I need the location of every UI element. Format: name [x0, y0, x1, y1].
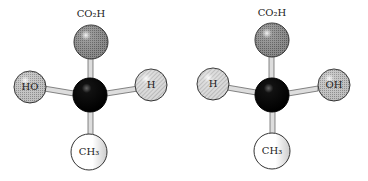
- molecule-2-top-label: CO₂H: [252, 7, 292, 19]
- molecule-1-right-label: H: [131, 79, 171, 91]
- molecule-2-bottom-label: CH₃: [252, 145, 292, 157]
- carbon-atom-sphere: [73, 78, 107, 112]
- molecules-diagram: [0, 0, 368, 181]
- molecule-2-right-label: OH: [314, 79, 354, 91]
- molecule-1-top-label: CO₂H: [71, 8, 111, 20]
- molecule-2-left-label: H: [193, 78, 233, 90]
- molecule-1-left-label: HO: [10, 81, 50, 93]
- molecule-1-bottom-label: CH₃: [69, 146, 109, 158]
